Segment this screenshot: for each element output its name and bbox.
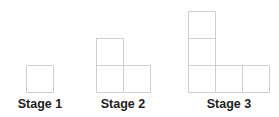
square <box>26 65 54 93</box>
stage-2-label: Stage 2 <box>101 97 145 111</box>
stage-pattern-diagram: Stage 1 Stage 2 Stage 3 <box>0 0 279 117</box>
square <box>215 65 243 93</box>
square <box>123 65 151 93</box>
square <box>188 65 216 93</box>
stage-3-label: Stage 3 <box>207 97 251 111</box>
square <box>188 11 216 39</box>
square <box>242 65 270 93</box>
stage-1-label: Stage 1 <box>18 97 62 111</box>
square <box>188 38 216 66</box>
square <box>96 65 124 93</box>
square <box>96 38 124 66</box>
